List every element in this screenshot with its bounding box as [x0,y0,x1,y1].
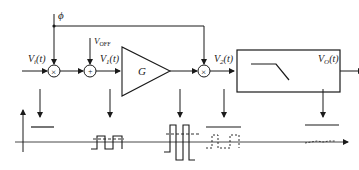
gain-label: G [138,65,146,77]
chopper-amplifier-diagram: ϕ Vi(t) × VOFF + V1(t) G × V2(t) [0,0,359,170]
probe-arrows [40,89,323,117]
phi-label: ϕ [58,9,64,21]
wf-amp-square [164,125,199,160]
multiply-icon: × [201,67,207,77]
wf-output-dc [305,125,339,143]
plus-icon: + [88,67,93,76]
v1-label: V1(t) [100,53,120,66]
mixer1-multiplier: × [48,65,60,77]
voff-label: VOFF [94,36,111,47]
amplifier-gain-block: G [122,47,170,96]
multiply-icon: × [51,67,57,77]
adder-summer: + [84,65,96,77]
vin-label: Vi(t) [28,53,46,66]
low-pass-filter-block [237,50,340,92]
v2-label: V2(t) [214,53,234,66]
mixer2-multiplier: × [198,65,210,77]
waveform-axes [15,110,348,152]
clock-phi-line: ϕ [52,9,204,64]
wf-v1-square [91,136,124,149]
wf-v2-demod [206,127,241,148]
vo-label: VO(t) [318,53,339,66]
lowpass-response-icon [251,64,289,80]
